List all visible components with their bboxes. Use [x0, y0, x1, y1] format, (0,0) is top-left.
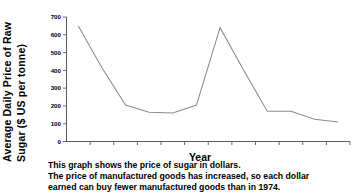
y-axis-title: Average Daily Price of Raw Sugar ($ US p…	[0, 0, 44, 160]
y-axis-title-line-2: Sugar ($ US per tonne)	[15, 4, 27, 162]
x-tick-label: 77	[144, 146, 154, 149]
data-series-line	[78, 26, 338, 122]
plot-area: 0100200300400500600700 74757677787980818…	[44, 8, 356, 148]
y-tick-label: 100	[51, 120, 62, 127]
y-tick-label: 700	[51, 13, 62, 20]
caption-line-1: This graph shows the price of sugar in d…	[48, 160, 356, 171]
caption-line-2: The price of manufactured goods has incr…	[48, 171, 356, 182]
x-tick-label: 80	[215, 146, 225, 149]
y-tick-label: 500	[51, 49, 62, 56]
x-tick-label: 75	[97, 146, 107, 149]
y-tick-label: 200	[51, 102, 62, 109]
caption-line-3: earned can buy fewer manufactured goods …	[48, 182, 356, 193]
chart-caption: This graph shows the price of sugar in d…	[48, 160, 356, 192]
x-tick-label: 84	[310, 146, 320, 149]
y-axis-title-line-1: Average Daily Price of Raw	[1, 4, 13, 162]
x-tick-label: 74	[74, 146, 84, 149]
y-tick-label: 600	[51, 31, 62, 38]
y-axis-ticks: 0100200300400500600700	[51, 13, 67, 145]
y-tick-label: 300	[51, 84, 62, 91]
y-tick-label: 0	[58, 138, 62, 145]
x-tick-label: 78	[168, 146, 178, 149]
x-tick-label: 85	[333, 146, 343, 149]
x-tick-label: 76	[121, 146, 131, 149]
x-axis-ticks: 747576777879808182838485	[74, 142, 350, 149]
x-tick-label: 79	[192, 146, 202, 149]
sugar-price-chart-figure: Average Daily Price of Raw Sugar ($ US p…	[0, 0, 356, 195]
x-tick-label: 81	[239, 146, 249, 149]
y-tick-label: 400	[51, 67, 62, 74]
x-tick-label: 83	[286, 146, 296, 149]
x-tick-label: 82	[263, 146, 273, 149]
chart-svg: 0100200300400500600700 74757677787980818…	[44, 8, 356, 148]
